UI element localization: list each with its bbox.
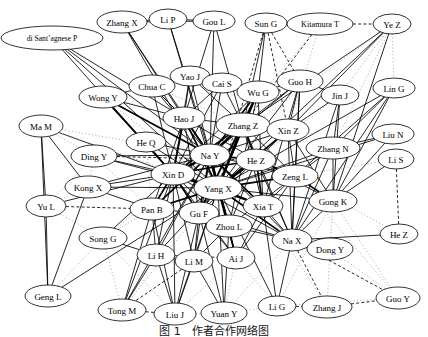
node-label: Jin J: [332, 91, 349, 101]
graph-node[interactable]: Chua C: [129, 75, 175, 97]
graph-edge: [230, 157, 237, 158]
graph-node[interactable]: Li P: [149, 9, 187, 29]
graph-node[interactable]: Sun G: [245, 13, 287, 33]
node-label: Hao J: [174, 114, 195, 124]
graph-edge: [279, 251, 289, 296]
graph-edge: [226, 269, 233, 302]
graph-node[interactable]: Li H: [137, 244, 175, 266]
graph-edge: [179, 272, 190, 303]
graph-node[interactable]: Zhou L: [206, 215, 252, 237]
graph-edge: [107, 193, 134, 202]
graph-edge: [118, 217, 138, 229]
graph-node[interactable]: Wu G: [237, 81, 279, 103]
node-label: Sun G: [255, 19, 278, 29]
graph-node[interactable]: He Z: [380, 224, 418, 244]
node-label: Li H: [148, 251, 165, 261]
graph-node[interactable]: Gou L: [193, 11, 235, 31]
graph-node[interactable]: Gong K: [309, 190, 357, 212]
graph-node[interactable]: Kitamura T: [287, 13, 353, 35]
figure-caption: 图 1 作者合作网络图: [0, 325, 428, 337]
graph-node[interactable]: Ye Z: [373, 14, 411, 34]
graph-node[interactable]: di Sant’agnese P: [1, 26, 103, 50]
graph-node[interactable]: Liu J: [154, 303, 196, 325]
graph-node[interactable]: Zhang N: [306, 137, 360, 159]
graph-node[interactable]: Song G: [79, 227, 127, 249]
graph-node[interactable]: Xin Z: [267, 119, 309, 141]
graph-node[interactable]: He Q: [126, 132, 166, 152]
node-label: Zhang X: [106, 18, 138, 28]
graph-node[interactable]: Guo Y: [376, 287, 420, 309]
node-label: Dong Y: [316, 245, 345, 255]
node-label: Zhang Z: [228, 121, 259, 131]
node-label: di Sant’agnese P: [27, 34, 78, 43]
graph-edge: [246, 308, 258, 310]
node-label: He Z: [247, 156, 265, 166]
graph-edge: [343, 258, 386, 289]
graph-node[interactable]: Ai J: [217, 247, 255, 269]
graph-node[interactable]: He Z: [236, 149, 276, 171]
node-label: Na Y: [201, 151, 220, 161]
graph-node[interactable]: Li S: [378, 149, 414, 169]
graph-node[interactable]: Yuan Y: [201, 302, 247, 324]
graph-node[interactable]: Hao J: [163, 107, 205, 129]
graph-node[interactable]: Kong X: [65, 176, 111, 198]
graph-node[interactable]: Na X: [272, 229, 312, 251]
graph-node[interactable]: Ding Y: [71, 145, 117, 167]
node-label: Cai S: [212, 79, 232, 89]
graph-node[interactable]: Xia T: [243, 195, 283, 217]
node-label: Chua C: [138, 82, 165, 92]
graph-node[interactable]: Yu L: [26, 195, 66, 217]
node-label: Li P: [160, 15, 175, 25]
node-label: Yang X: [204, 184, 232, 194]
node-label: Kitamura T: [301, 20, 339, 29]
graph-node[interactable]: Zhang J: [302, 296, 352, 318]
graph-node[interactable]: Geng L: [25, 285, 71, 307]
node-label: Gu F: [190, 209, 208, 219]
graph-node[interactable]: Tong M: [98, 299, 146, 321]
node-label: Zhou L: [216, 222, 243, 232]
graph-node[interactable]: Pan B: [130, 198, 174, 220]
graph-node[interactable]: Zeng L: [272, 165, 318, 187]
node-label: Guo H: [288, 77, 313, 87]
node-label: Pan B: [141, 205, 163, 215]
graph-edge: [110, 177, 152, 183]
node-label: Li M: [185, 257, 203, 267]
node-label: Xia T: [253, 202, 274, 212]
graph-node[interactable]: Liu N: [372, 124, 414, 144]
graph-edge: [396, 169, 398, 224]
graph-edge: [328, 260, 330, 296]
graph-node[interactable]: Lin G: [373, 78, 415, 98]
node-label: Yu L: [37, 202, 55, 212]
node-label: Xin D: [162, 170, 185, 180]
graph-node[interactable]: Li G: [258, 296, 296, 316]
graph-edge: [331, 212, 333, 238]
node-label: Zhang J: [313, 303, 342, 313]
node-label: Xin Z: [277, 126, 298, 136]
graph-edge: [58, 248, 94, 286]
node-label: Na X: [282, 236, 302, 246]
node-label: Liu J: [166, 310, 185, 320]
graph-node[interactable]: Cai S: [202, 73, 242, 93]
graph-edge: [258, 32, 381, 115]
node-label: Gong K: [319, 197, 348, 207]
node-label: He Q: [136, 138, 156, 148]
node-label: Ye Z: [383, 20, 400, 30]
graph-node[interactable]: Xin D: [151, 163, 195, 185]
graph-node[interactable]: Zhang Z: [216, 113, 270, 137]
graph-node[interactable]: Dong Y: [307, 238, 353, 260]
graph-node[interactable]: Jin J: [321, 85, 359, 105]
graph-node[interactable]: Zhang X: [97, 11, 147, 33]
graph-node[interactable]: Na Y: [190, 144, 230, 166]
graph-node[interactable]: Guo H: [277, 70, 323, 92]
graph-edge: [217, 31, 240, 113]
graph-edge: [146, 312, 155, 313]
node-label: Li G: [269, 302, 286, 312]
graph-node[interactable]: Yang X: [194, 176, 242, 200]
node-label: Li S: [388, 155, 403, 165]
graph-edge: [293, 92, 300, 229]
graph-node[interactable]: Li M: [175, 250, 213, 272]
graph-node[interactable]: Wong Y: [79, 86, 127, 108]
graph-node[interactable]: Ma M: [19, 115, 63, 137]
node-label: Yuan Y: [211, 309, 238, 319]
graph-edge: [90, 167, 92, 176]
